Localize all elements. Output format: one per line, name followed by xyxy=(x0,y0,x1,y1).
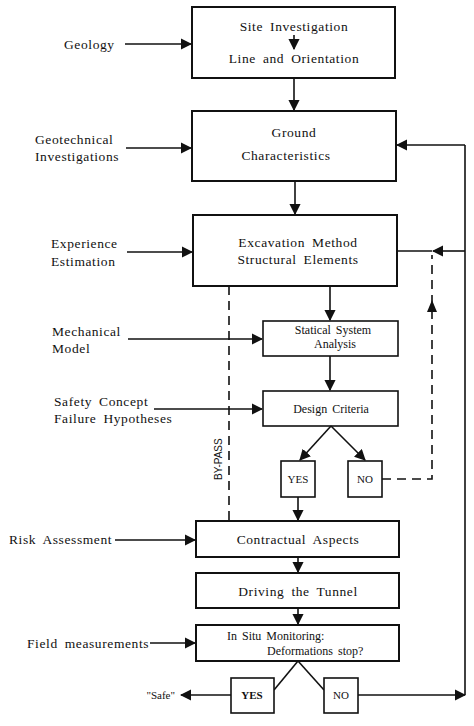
decision-monitor-yes-label: YES xyxy=(241,689,262,701)
dashed-up-arrowhead xyxy=(427,300,437,312)
decision-design-yes: YES xyxy=(281,461,315,497)
line-monitor-to-yes xyxy=(274,661,298,690)
input-mechanical-label-1: Mechanical xyxy=(52,324,121,339)
input-geotechnical-label-1: Geotechnical xyxy=(35,132,113,147)
box-site-line1: Site Investigation xyxy=(240,19,349,34)
input-geotechnical: Geotechnical Investigations xyxy=(35,132,191,164)
box-site-line2: Line and Orientation xyxy=(229,51,359,66)
box-contractual-label: Contractual Aspects xyxy=(237,532,360,547)
box-driving-tunnel: Driving the Tunnel xyxy=(196,573,399,608)
dashed-no-loop xyxy=(382,255,432,479)
decision-monitor-no-label: NO xyxy=(333,689,349,701)
decision-design-no-label: NO xyxy=(357,473,373,485)
input-geotechnical-label-2: Investigations xyxy=(35,149,119,164)
input-mechanical-label-2: Model xyxy=(52,341,90,356)
input-geology: Geology xyxy=(64,37,191,52)
input-geology-label: Geology xyxy=(64,37,115,52)
input-experience: Experience Estimation xyxy=(51,236,192,269)
input-safety: Safety Concept Failure Hypotheses xyxy=(54,394,262,426)
box-excavation-method: Excavation Method Structural Elements xyxy=(193,215,397,286)
box-monitoring-line1: In Situ Monitoring: xyxy=(227,629,324,643)
input-safety-label-2: Failure Hypotheses xyxy=(54,411,172,426)
box-statical-line2: Analysis xyxy=(314,337,356,351)
input-field: Field measurements xyxy=(27,636,195,651)
box-in-situ-monitoring: In Situ Monitoring: Deformations stop? xyxy=(196,625,399,661)
input-mechanical: Mechanical Model xyxy=(52,324,262,356)
decision-design-no: NO xyxy=(348,461,382,497)
input-field-label: Field measurements xyxy=(27,636,149,651)
box-ground-line1: Ground xyxy=(272,125,317,140)
decision-design-yes-label: YES xyxy=(288,473,309,485)
line-monitor-to-no xyxy=(298,661,324,690)
box-excavation-line1: Excavation Method xyxy=(238,235,357,250)
box-ground-line2: Characteristics xyxy=(241,148,330,163)
input-experience-label-1: Experience xyxy=(51,236,118,251)
box-contractual-aspects: Contractual Aspects xyxy=(196,521,399,557)
box-statical-system: Statical System Analysis xyxy=(263,321,398,356)
decision-monitor-yes: YES xyxy=(231,678,274,713)
box-monitoring-line2: Deformations stop? xyxy=(267,644,363,658)
outcome-safe-label: "Safe" xyxy=(146,689,175,701)
box-site-investigation: Site Investigation Line and Orientation xyxy=(192,7,395,78)
arrow-design-to-no xyxy=(331,426,365,460)
input-risk-label: Risk Assessment xyxy=(9,532,112,547)
bypass-label: BY-PASS xyxy=(213,438,224,480)
box-statical-line1: Statical System xyxy=(295,323,372,337)
tunnel-design-flowchart: Geology Geotechnical Investigations Expe… xyxy=(0,0,474,726)
box-design-label: Design Criteria xyxy=(293,402,369,416)
box-excavation-line2: Structural Elements xyxy=(237,252,358,267)
input-risk: Risk Assessment xyxy=(9,532,195,547)
box-ground-characteristics: Ground Characteristics xyxy=(192,111,396,181)
input-experience-label-2: Estimation xyxy=(51,254,116,269)
box-design-criteria: Design Criteria xyxy=(263,391,398,426)
arrow-design-to-yes xyxy=(300,426,331,460)
input-safety-label-1: Safety Concept xyxy=(54,394,148,409)
box-driving-label: Driving the Tunnel xyxy=(238,584,358,599)
decision-monitor-no: NO xyxy=(324,678,358,713)
